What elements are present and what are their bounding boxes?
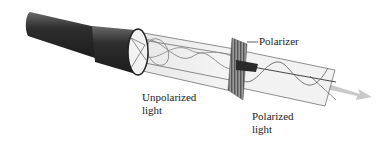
polarized-label-line2: light [252,123,294,136]
unpolarized-label-line2: light [142,104,196,117]
unpolarized-label-line1: Unpolarized [142,91,196,104]
polarized-beam [232,50,336,106]
unpolarized-light-label: Unpolarized light [142,91,196,117]
polarized-light-label: Polarized light [252,110,294,136]
polarized-label-line1: Polarized [252,110,294,123]
polarization-diagram [0,0,390,148]
polarizer-label: Polarizer [259,35,299,48]
flashlight [26,12,148,75]
